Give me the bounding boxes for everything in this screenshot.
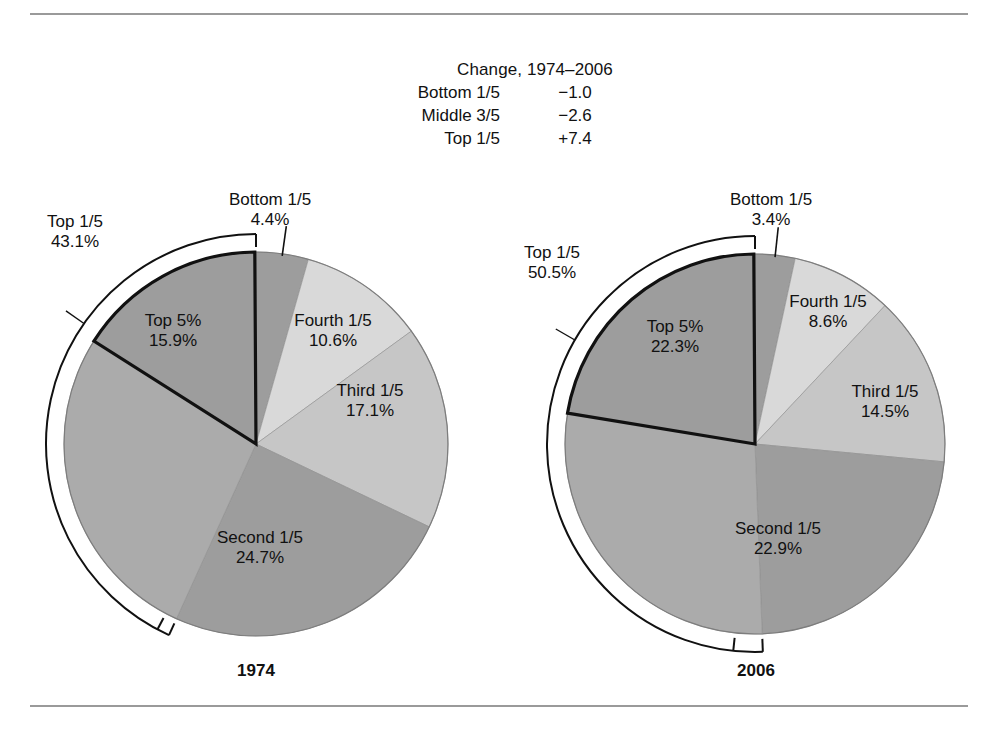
slice-label-text: Second 1/5 (200, 528, 320, 548)
callout-label-value: 3.4% (706, 210, 836, 230)
chart-1974-year-label: 1974 (196, 661, 316, 681)
callout-label-value: 4.4% (205, 210, 335, 230)
bottom-fifth-leader-line (775, 227, 778, 257)
top-fifth-leader-line (66, 311, 84, 324)
bracket-label-text: Top 1/5 (487, 243, 617, 263)
chart-2006-bracket-label: Top 1/5 50.5% (487, 243, 617, 283)
slice-label-value: 14.5% (830, 402, 940, 422)
callout-label-text: Bottom 1/5 (706, 190, 836, 210)
slice-label-value: 17.1% (315, 401, 425, 421)
top-fifth-bracket-tick (169, 623, 174, 635)
chart-2006-slice-label-third: Third 1/5 14.5% (830, 382, 940, 422)
slice-label-text: Fourth 1/5 (278, 311, 388, 331)
chart-1974-slice-label-fourth: Fourth 1/5 10.6% (278, 311, 388, 351)
pie-charts-svg (0, 0, 996, 730)
pie-group-2006 (547, 227, 945, 652)
chart-1974-slice-label-top5: Top 5% 15.9% (118, 311, 228, 351)
slice-label-text: Second 1/5 (718, 519, 838, 539)
slice-label-value: 10.6% (278, 331, 388, 351)
slice-label-text: Third 1/5 (315, 381, 425, 401)
slice-label-value: 15.9% (118, 331, 228, 351)
bracket-label-value: 43.1% (10, 232, 140, 252)
pie-group-1974 (46, 226, 448, 636)
chart-2006-bottom-callout: Bottom 1/5 3.4% (706, 190, 836, 230)
callout-label-text: Bottom 1/5 (205, 190, 335, 210)
chart-1974-slice-label-second: Second 1/5 24.7% (200, 528, 320, 568)
slice-label-text: Fourth 1/5 (773, 292, 883, 312)
slice-label-value: 22.9% (718, 539, 838, 559)
year-bracket-tick (733, 638, 734, 651)
slice-label-text: Third 1/5 (830, 382, 940, 402)
chart-2006-slice-label-top5: Top 5% 22.3% (620, 317, 730, 357)
year-bracket-tick (157, 618, 163, 629)
bracket-label-value: 50.5% (487, 263, 617, 283)
bracket-label-text: Top 1/5 (10, 212, 140, 232)
slice-label-text: Top 5% (118, 311, 228, 331)
figure-root: Change, 1974–2006 Bottom 1/5 −1.0 Middle… (0, 0, 996, 730)
slice-label-value: 22.3% (620, 337, 730, 357)
chart-2006-slice-label-second: Second 1/5 22.9% (718, 519, 838, 559)
chart-1974-bottom-callout: Bottom 1/5 4.4% (205, 190, 335, 230)
bottom-fifth-leader-line (282, 226, 286, 256)
chart-1974-bracket-label: Top 1/5 43.1% (10, 212, 140, 252)
pie-charts-area (0, 0, 996, 730)
top-fifth-leader-line (556, 329, 575, 340)
chart-1974-slice-label-third: Third 1/5 17.1% (315, 381, 425, 421)
chart-2006-year-label: 2006 (696, 661, 816, 681)
chart-2006-slice-label-fourth: Fourth 1/5 8.6% (773, 292, 883, 332)
slice-label-value: 24.7% (200, 548, 320, 568)
slice-label-text: Top 5% (620, 317, 730, 337)
slice-label-value: 8.6% (773, 312, 883, 332)
